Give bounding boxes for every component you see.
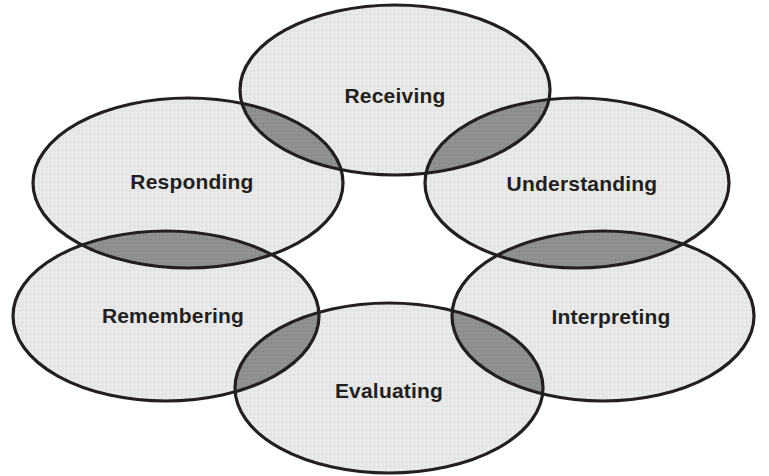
ellipse-label-interpreting: Interpreting xyxy=(551,305,670,328)
ellipse-label-responding: Responding xyxy=(130,170,253,193)
venn-diagram-container: ReceivingUnderstandingInterpretingEvalua… xyxy=(0,0,769,476)
ellipse-label-receiving: Receiving xyxy=(344,84,445,107)
ellipse-label-understanding: Understanding xyxy=(507,172,658,195)
ellipse-label-evaluating: Evaluating xyxy=(335,379,443,402)
ellipse-label-remembering: Remembering xyxy=(102,304,244,327)
venn-diagram-canvas: ReceivingUnderstandingInterpretingEvalua… xyxy=(0,0,769,476)
